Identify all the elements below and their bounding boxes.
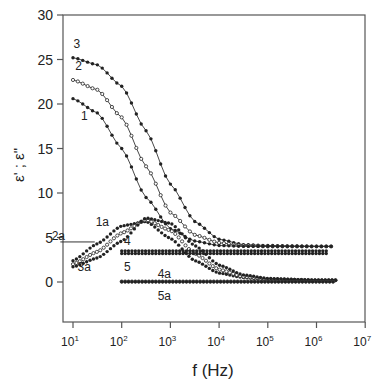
x-tick-label: 106 [305,334,323,349]
curve-label-2: 2 [75,59,82,73]
y-tick-label: 20 [37,96,53,112]
curve-label-3a: 3a [78,260,92,274]
curve-label-1: 1 [81,109,88,123]
series-2 [71,78,332,248]
curve-label-2a: 2a [52,229,66,243]
x-tick-label: 105 [256,334,274,349]
series-3a [71,216,337,281]
curve-label-1a: 1a [96,215,110,229]
data-series [60,56,337,284]
y-axis-ticks: 051015202530 [37,7,63,290]
plot-frame [63,15,365,322]
series-5 [120,252,328,255]
dielectric-spectrum-chart: 051015202530 101102103104105106107 3211a… [0,0,387,386]
x-axis-label: f (Hz) [192,361,234,380]
x-tick-label: 102 [110,334,128,349]
curve-label-5: 5 [124,260,131,274]
y-tick-label: 25 [37,52,53,68]
x-axis-ticks: 101102103104105106107 [61,322,372,349]
x-tick-label: 103 [158,334,176,349]
series-1 [71,97,333,248]
curve-label-4: 4 [124,234,131,248]
curve-label-5a: 5a [158,289,172,303]
y-tick-label: 0 [45,274,53,290]
y-tick-label: 15 [37,141,53,157]
series-5a [120,280,335,283]
y-axis-label: ε' ; ε" [10,148,27,182]
curve-label-4a: 4a [158,267,172,281]
y-tick-label: 10 [37,185,53,201]
series-3 [71,56,333,248]
y-tick-label: 30 [37,7,53,23]
curve-label-3: 3 [74,37,81,51]
x-tick-label: 104 [207,334,225,349]
x-tick-label: 107 [353,334,371,349]
x-tick-label: 101 [61,334,79,349]
